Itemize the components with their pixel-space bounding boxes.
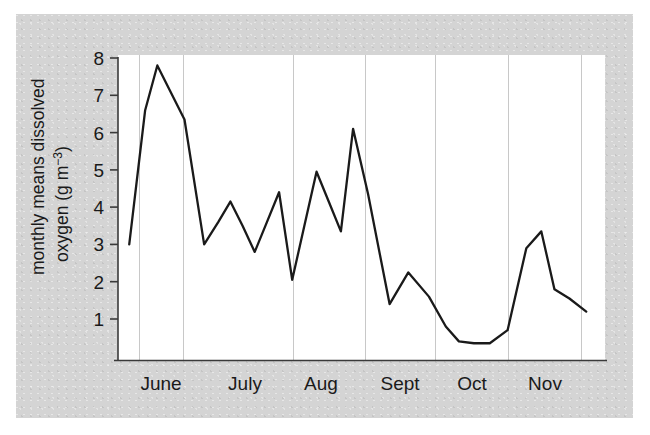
y-tick-label-3: 3 [93,234,104,255]
x-tick-label-nov: Nov [528,373,562,394]
y-tick-label-5: 5 [93,160,104,181]
y-axis-title-line2: oxygen (g m−3) [51,146,72,262]
plot-area-background [118,55,605,360]
y-axis-title-line2-tail: ) [52,146,72,152]
y-tick-label-1: 1 [93,309,104,330]
y-tick-label-7: 7 [93,85,104,106]
x-tick-label-oct: Oct [457,373,487,394]
y-axis-title-line2-main: oxygen (g m [52,166,72,262]
y-tick-labels: 8 7 6 5 4 3 2 1 [93,48,104,330]
x-tick-label-aug: Aug [304,373,338,394]
y-tick-label-4: 4 [93,197,104,218]
line-chart: 8 7 6 5 4 3 2 1 monthly means dissolved … [0,0,650,435]
y-tick-label-6: 6 [93,123,104,144]
x-tick-labels: June July Aug Sept Oct Nov [140,373,562,394]
x-tick-label-sept: Sept [380,373,420,394]
x-tick-label-july: July [228,373,262,394]
y-axis-title: monthly means dissolved oxygen (g m−3) [28,79,72,275]
figure-root: 8 7 6 5 4 3 2 1 monthly means dissolved … [0,0,650,435]
y-axis-title-exponent: −3 [51,152,65,166]
y-tick-label-2: 2 [93,272,104,293]
y-axis-title-line1: monthly means dissolved [28,79,48,275]
y-tick-label-8: 8 [93,48,104,69]
y-tick-marks [110,58,118,319]
x-tick-label-june: June [140,373,181,394]
